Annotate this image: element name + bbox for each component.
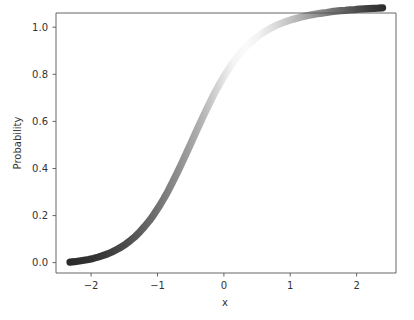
x-tick-label: −1 [150, 280, 165, 291]
x-tick-label: 2 [353, 280, 359, 291]
x-tick-label: −2 [84, 280, 99, 291]
x-tick-label: 0 [221, 280, 227, 291]
y-tick-label: 0.4 [32, 163, 48, 174]
figure-canvas: −2 −1 0 1 2 0.0 0.2 0.4 0.6 0.8 1.0 x Pr… [0, 0, 414, 320]
y-tick-label: 0.2 [32, 210, 48, 221]
y-tick-label: 0.0 [32, 257, 48, 268]
chart-plot: −2 −1 0 1 2 0.0 0.2 0.4 0.6 0.8 1.0 x Pr… [0, 0, 414, 320]
y-tick-label: 1.0 [32, 22, 48, 33]
y-axis-label: Probability [12, 116, 23, 169]
y-tick-label: 0.8 [32, 69, 48, 80]
y-tick-label: 0.6 [32, 116, 48, 127]
x-axis-label: x [222, 297, 228, 308]
x-tick-label: 1 [287, 280, 293, 291]
axes-facecolor [56, 13, 396, 273]
